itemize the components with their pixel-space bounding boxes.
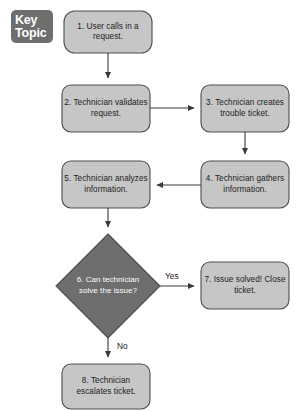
flowchart-canvas: Key Topic	[0, 0, 298, 411]
node-2-shape	[62, 85, 150, 132]
edge-label-no: No	[117, 341, 128, 351]
node-1-shape	[64, 11, 152, 53]
node-5-shape	[62, 161, 150, 208]
edge-label-yes: Yes	[165, 271, 179, 281]
node-4-shape	[201, 161, 289, 208]
node-3-shape	[201, 85, 289, 132]
flowchart-graphics	[0, 0, 298, 411]
node-6-shape	[56, 234, 160, 338]
node-8-shape	[62, 364, 150, 409]
node-7-shape	[201, 262, 289, 309]
